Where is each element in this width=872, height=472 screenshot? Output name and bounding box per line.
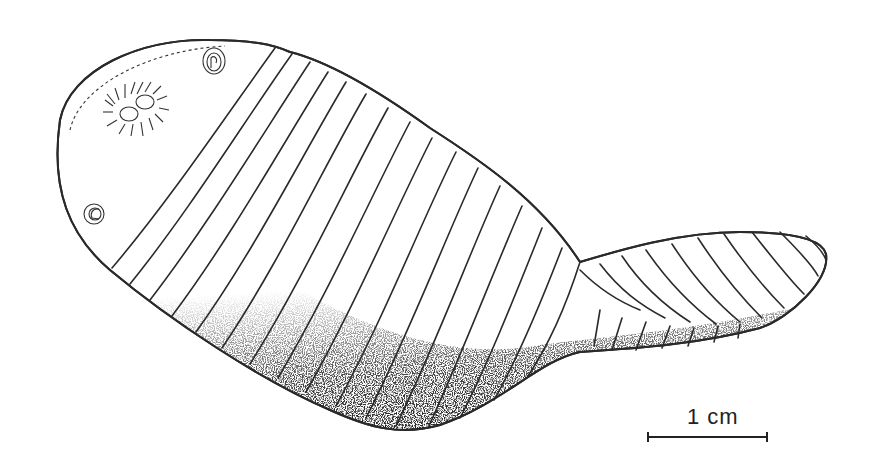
body: [40, 40, 830, 460]
scale-bar-label: 1 cm: [687, 404, 739, 430]
organism-illustration: [0, 0, 872, 472]
scale-bar: [648, 432, 767, 442]
